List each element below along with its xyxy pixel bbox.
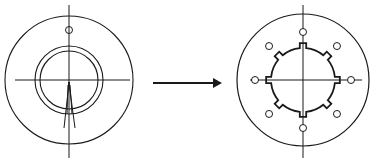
left-figure-disc-with-ring xyxy=(5,5,133,158)
bolt-hole xyxy=(252,77,259,84)
bolt-hole xyxy=(333,43,340,50)
bolt-hole xyxy=(300,29,307,36)
bolt-hole xyxy=(333,110,340,117)
bolt-hole xyxy=(348,77,355,84)
right-figure-disc-with-spline xyxy=(237,5,369,158)
transformation-arrow xyxy=(153,78,222,88)
transformation-diagram xyxy=(0,0,372,163)
bolt-hole xyxy=(266,110,273,117)
bolt-hole xyxy=(300,125,307,132)
cutter-inner-left xyxy=(67,85,68,114)
arrow-head xyxy=(213,78,222,88)
bolt-hole xyxy=(266,43,273,50)
